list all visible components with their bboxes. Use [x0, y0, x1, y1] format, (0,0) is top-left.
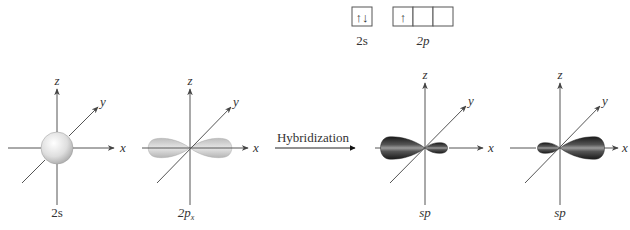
- orbital-label-2s: 2s: [356, 33, 368, 48]
- z-axis-label: z: [186, 73, 192, 88]
- diagram-sp-right: z x y sp: [510, 67, 628, 220]
- x-axis-label: x: [119, 140, 126, 155]
- z-axis-label: z: [53, 73, 59, 88]
- s-orbital-sphere: [41, 132, 73, 164]
- z-axis-label: z: [556, 67, 562, 82]
- diagram-label-sp-1: sp: [419, 205, 431, 220]
- x-axis-label: x: [252, 140, 259, 155]
- y-axis-label: y: [600, 93, 608, 108]
- y-axis-label: y: [466, 93, 474, 108]
- hybridization-diagram: ↑↓ ↑ 2s 2p z x y 2s z x: [0, 0, 630, 230]
- sp-lobe-large: [381, 137, 426, 159]
- y-axis-back: [22, 160, 45, 183]
- diagram-label-2s: 2s: [51, 205, 63, 220]
- y-axis: [69, 107, 98, 136]
- electron-arrows-2p-1: ↑: [400, 10, 407, 25]
- x-axis-label: x: [621, 140, 628, 155]
- diagram-label-2px: 2px: [178, 205, 195, 222]
- electron-arrows-2s: ↑↓: [356, 10, 369, 25]
- orbital-label-2p: 2p: [417, 33, 431, 48]
- hybridization-arrow: Hybridization: [275, 130, 355, 148]
- diagram-2px: z x y 2px: [142, 73, 259, 222]
- hybridization-label: Hybridization: [277, 130, 350, 145]
- y-axis-label: y: [98, 94, 106, 109]
- orbital-box-2s: ↑↓: [352, 7, 372, 26]
- diagram-2s: z x y 2s: [8, 73, 126, 220]
- sp-lobe-small: [538, 143, 561, 154]
- x-axis-label: x: [487, 140, 494, 155]
- diagram-label-sp-2: sp: [554, 205, 566, 220]
- z-axis-label: z: [421, 67, 427, 82]
- label-main: 2p: [178, 205, 192, 220]
- electron-config: ↑↓ ↑ 2s 2p: [352, 7, 453, 48]
- label-subscript: x: [190, 213, 195, 222]
- orbital-box-2p: ↑: [393, 7, 453, 26]
- diagram-sp-left: z x y sp: [375, 67, 494, 220]
- y-axis-label: y: [231, 94, 239, 109]
